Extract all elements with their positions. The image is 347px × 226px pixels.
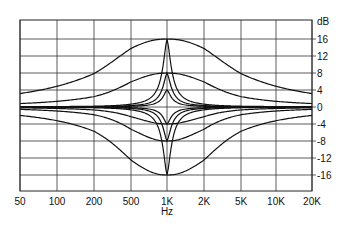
eq-curve bbox=[20, 109, 312, 141]
y-tick-label: 12 bbox=[317, 51, 329, 62]
x-tick-label: 200 bbox=[86, 196, 103, 207]
x-tick-label: 10K bbox=[267, 196, 285, 207]
y-tick-label: -4 bbox=[317, 119, 326, 130]
y-tick-label: -12 bbox=[317, 153, 332, 164]
y-tick-label: 0 bbox=[317, 102, 323, 113]
y-axis-ticks: 1612840-4-8-12-16 bbox=[317, 34, 332, 181]
y-tick-label: -8 bbox=[317, 136, 326, 147]
y-tick-label: -16 bbox=[317, 170, 332, 181]
x-tick-label: 2K bbox=[198, 196, 211, 207]
x-tick-label: 5K bbox=[235, 196, 248, 207]
eq-curve bbox=[20, 107, 312, 124]
y-axis-unit-label: dB bbox=[317, 16, 330, 27]
x-axis-label: Hz bbox=[161, 206, 173, 217]
x-tick-label: 500 bbox=[123, 196, 140, 207]
eq-curve bbox=[20, 90, 312, 107]
y-tick-label: 16 bbox=[317, 34, 329, 45]
y-tick-label: 8 bbox=[317, 68, 323, 79]
x-tick-label: 20K bbox=[303, 196, 321, 207]
y-tick-label: 4 bbox=[317, 85, 323, 96]
x-tick-label: 100 bbox=[49, 196, 66, 207]
x-tick-label: 50 bbox=[14, 196, 26, 207]
eq-frequency-response-chart: 501002005001K2K5K10K20K 1612840-4-8-12-1… bbox=[0, 0, 347, 226]
